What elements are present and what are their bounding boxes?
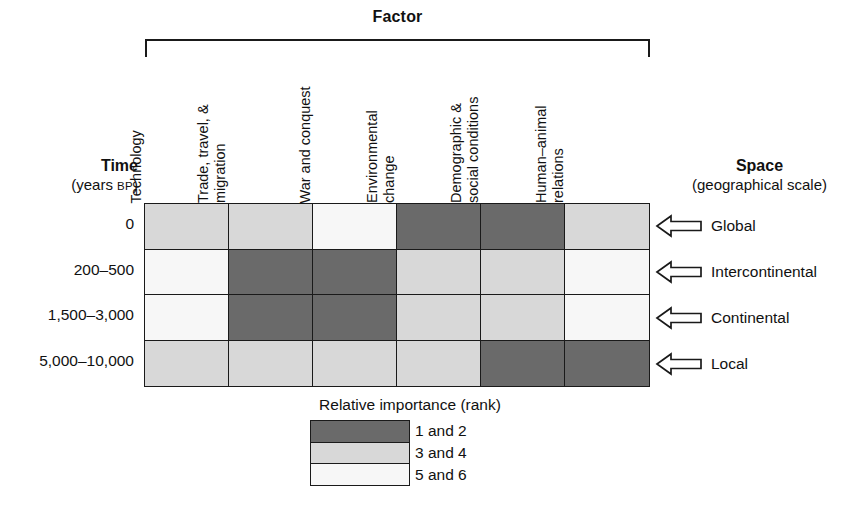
heatmap-cell — [481, 204, 565, 250]
left-arrow-icon — [655, 352, 703, 376]
legend-label-group: 1 and 23 and 45 and 6 — [415, 420, 615, 486]
heatmap-cell — [397, 204, 481, 250]
space-label-local: Local — [711, 355, 748, 373]
legend-label-med: 3 and 4 — [415, 442, 615, 464]
heatmap-cell — [481, 341, 565, 387]
row-label-time-1: 0 — [0, 215, 134, 233]
factor-axis-title: Factor — [145, 8, 650, 26]
heatmap-cell — [229, 341, 313, 387]
space-arrow-row-4: Local — [655, 351, 748, 377]
legend-label-light: 5 and 6 — [415, 464, 615, 486]
row-label-time-3: 1,500–3,000 — [0, 306, 134, 324]
legend-swatch-med — [311, 443, 409, 465]
heatmap-cell — [481, 295, 565, 341]
left-arrow-icon — [655, 306, 703, 330]
column-header-line: relations — [549, 105, 566, 203]
heatmap-cell — [313, 341, 397, 387]
time-axis-title: Time (years BP) — [0, 156, 138, 196]
legend-label-dark: 1 and 2 — [415, 420, 615, 442]
space-arrow-row-1: Global — [655, 213, 756, 239]
time-sub-close: ) — [133, 176, 138, 193]
column-header-line: War and conquest — [296, 86, 313, 203]
heatmap-cell — [313, 295, 397, 341]
column-header-line: Demographic & — [448, 97, 465, 203]
legend-swatch-dark — [311, 421, 409, 443]
column-header-line: change — [380, 110, 397, 203]
heatmap-cell — [145, 295, 229, 341]
time-sub-open: (years — [71, 176, 117, 193]
heatmap-cell — [565, 250, 649, 296]
heatmap-cell — [229, 295, 313, 341]
heatmap-cell — [565, 341, 649, 387]
legend-swatch-light — [311, 464, 409, 485]
heatmap-cell — [397, 250, 481, 296]
column-header-6: Human–animalrelations — [566, 57, 650, 203]
column-header-line: social conditions — [465, 97, 482, 203]
space-label-continental: Continental — [711, 309, 789, 327]
column-header-line: Human–animal — [533, 105, 550, 203]
column-header-line: Environmental — [364, 110, 381, 203]
heatmap-cell — [145, 204, 229, 250]
left-arrow-icon — [655, 260, 703, 284]
column-header-label: War and conquest — [296, 86, 313, 203]
column-header-line: migration — [212, 104, 229, 203]
heatmap-cell — [229, 204, 313, 250]
space-axis-title-sub: (geographical scale) — [660, 175, 859, 194]
heatmap-matrix — [144, 203, 650, 387]
figure-root: Factor TechnologyTrade, travel, &migrati… — [0, 0, 859, 511]
column-header-group: TechnologyTrade, travel, &migrationWar a… — [144, 57, 650, 203]
row-label-time-4: 5,000–10,000 — [0, 352, 134, 370]
time-axis-title-sub: (years BP) — [0, 175, 138, 196]
factor-bracket — [145, 39, 650, 57]
legend-title: Relative importance (rank) — [200, 396, 620, 414]
space-axis-title: Space (geographical scale) — [660, 156, 859, 194]
column-header-label: Environmentalchange — [364, 110, 397, 203]
heatmap-cell — [145, 250, 229, 296]
column-header-line: Trade, travel, & — [195, 104, 212, 203]
heatmap-cell — [565, 204, 649, 250]
space-arrow-row-3: Continental — [655, 305, 789, 331]
column-header-label: Trade, travel, &migration — [195, 104, 228, 203]
column-header-label: Demographic &social conditions — [448, 97, 481, 203]
heatmap-cell — [481, 250, 565, 296]
column-header-label: Human–animalrelations — [533, 105, 566, 203]
heatmap-cell — [397, 295, 481, 341]
time-axis-title-main: Time — [0, 156, 138, 175]
heatmap-cell — [397, 341, 481, 387]
heatmap-cell — [229, 250, 313, 296]
legend-swatch-box — [310, 420, 410, 486]
heatmap-cell — [313, 250, 397, 296]
space-label-global: Global — [711, 217, 756, 235]
space-label-intercontinental: Intercontinental — [711, 263, 817, 281]
heatmap-cell — [565, 295, 649, 341]
heatmap-cell — [145, 341, 229, 387]
row-label-time-2: 200–500 — [0, 261, 134, 279]
heatmap-cell — [313, 204, 397, 250]
space-arrow-row-2: Intercontinental — [655, 259, 817, 285]
left-arrow-icon — [655, 214, 703, 238]
time-sub-bp: BP — [117, 180, 133, 192]
space-axis-title-main: Space — [660, 156, 859, 175]
